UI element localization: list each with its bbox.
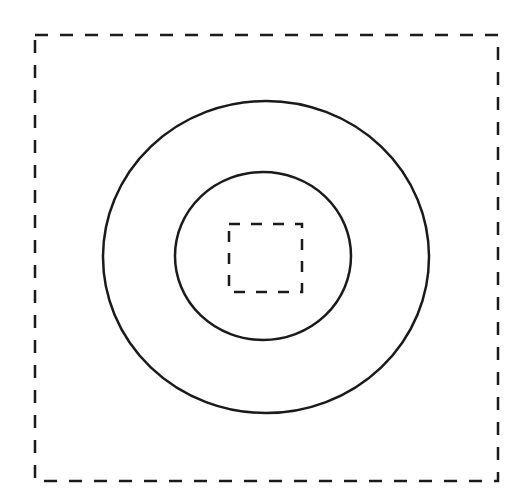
- diagram-canvas: [0, 0, 529, 501]
- inner-dashed-square: [229, 224, 302, 292]
- inner-circle: [175, 172, 351, 340]
- outer-circle: [103, 101, 429, 413]
